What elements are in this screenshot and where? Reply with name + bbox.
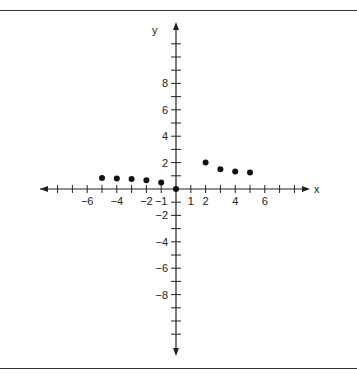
data-point <box>173 186 179 192</box>
data-point <box>203 160 209 166</box>
data-point <box>99 175 105 181</box>
data-point <box>143 177 149 183</box>
y-axis-label: y <box>152 24 158 36</box>
data-point <box>232 168 238 174</box>
data-point <box>247 170 253 176</box>
x-tick-label: −1 <box>155 195 168 207</box>
x-tick-label: −4 <box>111 195 124 207</box>
y-tick-label: −2 <box>155 209 168 221</box>
y-tick-label: −6 <box>155 262 168 274</box>
y-tick-label: 4 <box>162 130 168 142</box>
y-tick-label: −4 <box>155 236 168 248</box>
x-tick-label: −6 <box>81 195 94 207</box>
arrow-down-icon <box>173 348 179 356</box>
data-point <box>158 179 164 185</box>
x-tick-label: 4 <box>232 195 238 207</box>
x-tick-label: −2 <box>140 195 153 207</box>
arrow-right-icon <box>302 186 310 192</box>
y-tick-label: 2 <box>162 157 168 169</box>
coordinate-plane: −6−4−2−112468642−2−4−6−8 x y <box>0 0 357 382</box>
y-tick-label: −8 <box>155 289 168 301</box>
x-tick-label: 2 <box>203 195 209 207</box>
arrow-left-icon <box>40 186 48 192</box>
arrow-up-icon <box>173 22 179 30</box>
data-point <box>129 176 135 182</box>
y-tick-label: 6 <box>162 104 168 116</box>
data-point <box>217 166 223 172</box>
y-tick-label: 8 <box>162 77 168 89</box>
x-axis-label: x <box>314 183 320 195</box>
x-tick-label: 1 <box>188 195 194 207</box>
data-point <box>114 175 120 181</box>
x-tick-label: 6 <box>262 195 268 207</box>
